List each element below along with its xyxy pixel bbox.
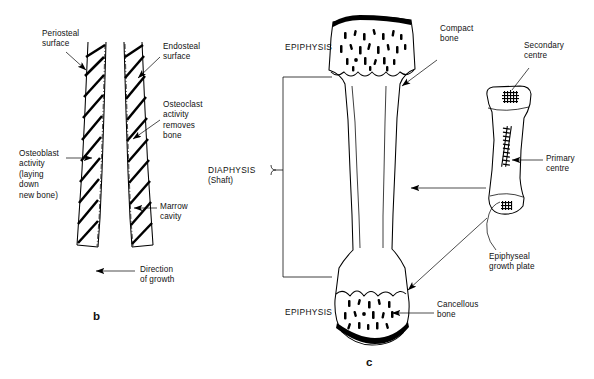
label-periosteal-surface: Periosteal surface xyxy=(42,29,79,50)
label-diaphysis: DIAPHYSIS xyxy=(208,165,256,175)
panel-b-artwork xyxy=(66,42,160,271)
cancellous-speckles-bottom xyxy=(344,299,394,330)
label-osteoblast-activity: Osteoblast activity (laying down new bon… xyxy=(19,149,59,201)
primary-centre xyxy=(501,126,512,167)
long-bone-outline xyxy=(329,17,415,345)
panel-letter-b: b xyxy=(93,310,100,322)
growth-plate-line-bottom xyxy=(336,291,406,296)
panel-letter-c: c xyxy=(366,356,372,368)
figure-bone-growth: Periosteal surface Endosteal surface Ost… xyxy=(0,0,594,379)
label-secondary-centre: Secondary centre xyxy=(524,41,564,62)
figure-artwork xyxy=(0,0,594,379)
label-diaphysis-shaft: (Shaft) xyxy=(208,176,233,186)
left-cortical-wall xyxy=(77,42,106,247)
articular-cartilage-top xyxy=(333,15,411,27)
panel-c-artwork xyxy=(271,15,543,345)
secondary-centre-upper xyxy=(502,90,519,103)
label-primary-centre: Primary centre xyxy=(546,154,575,175)
label-osteoclast-activity: Osteoclast activity removes bone xyxy=(163,100,203,142)
right-cortical-wall xyxy=(124,42,153,247)
label-epiphyseal-growth-plate: Epiphyseal growth plate xyxy=(489,252,535,273)
label-marrow-cavity: Marrow cavity xyxy=(160,202,188,223)
secondary-centre-lower xyxy=(501,201,512,210)
cancellous-speckles-top xyxy=(340,29,406,72)
leader-growth-plate-curve xyxy=(487,202,500,250)
fetal-bone-inset xyxy=(487,86,531,214)
growth-plate-line-top xyxy=(331,70,414,76)
label-endosteal-surface: Endosteal surface xyxy=(163,42,200,63)
articular-cartilage-bottom xyxy=(336,322,409,344)
label-epiphysis-bottom: EPIPHYSIS xyxy=(285,307,332,317)
leader-periosteal xyxy=(66,52,86,70)
label-epiphysis-top: EPIPHYSIS xyxy=(285,42,332,52)
diaphysis-bracket xyxy=(271,77,332,277)
medullary-cavity xyxy=(352,86,386,248)
label-direction-of-growth: Direction of growth xyxy=(140,265,174,286)
label-compact-bone: Compact bone xyxy=(440,24,473,45)
arrow-inset-to-main-distal xyxy=(408,218,487,290)
label-cancellous-bone: Cancellous bone xyxy=(437,300,478,321)
